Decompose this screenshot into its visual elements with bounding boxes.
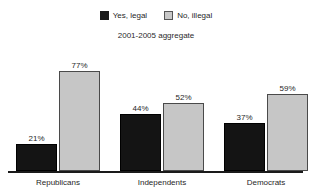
- x-axis-baseline: [8, 171, 303, 173]
- bar-value-democrats-no-illegal: 59%: [279, 84, 295, 93]
- plot-area: 21% 77% Republicans 44% 52% Independents…: [0, 0, 312, 192]
- bar-group-democrats: 37% 59% Democrats: [224, 0, 308, 192]
- bar-independents-no-illegal: 52%: [163, 103, 204, 171]
- bar-group-independents: 44% 52% Independents: [120, 0, 204, 192]
- bar-value-republicans-yes-legal: 21%: [28, 134, 44, 143]
- bar-value-independents-yes-legal: 44%: [132, 104, 148, 113]
- bar-value-republicans-no-illegal: 77%: [71, 61, 87, 70]
- bar-group-republicans: 21% 77% Republicans: [16, 0, 100, 192]
- bar-republicans-no-illegal: 77%: [59, 71, 100, 171]
- category-label-independents: Independents: [120, 178, 204, 187]
- bar-chart: Yes, legal No, illegal 2001-2005 aggrega…: [0, 0, 312, 192]
- bar-value-independents-no-illegal: 52%: [175, 93, 191, 102]
- bar-democrats-yes-legal: 37%: [224, 123, 265, 171]
- category-label-republicans: Republicans: [16, 178, 100, 187]
- bar-democrats-no-illegal: 59%: [267, 94, 308, 171]
- bar-independents-yes-legal: 44%: [120, 114, 161, 171]
- bar-republicans-yes-legal: 21%: [16, 144, 57, 171]
- category-label-democrats: Democrats: [224, 178, 308, 187]
- bar-value-democrats-yes-legal: 37%: [236, 113, 252, 122]
